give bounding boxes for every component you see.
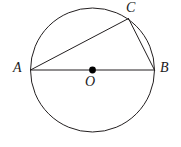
point-label-a: A xyxy=(13,61,22,75)
point-label-c: C xyxy=(126,1,135,15)
geometry-figure: A B C O xyxy=(0,0,181,147)
point-label-o: O xyxy=(85,75,95,89)
segment-CB xyxy=(129,19,155,71)
center-dot xyxy=(89,67,96,74)
segment-AC xyxy=(31,19,129,71)
point-label-b: B xyxy=(160,61,169,75)
